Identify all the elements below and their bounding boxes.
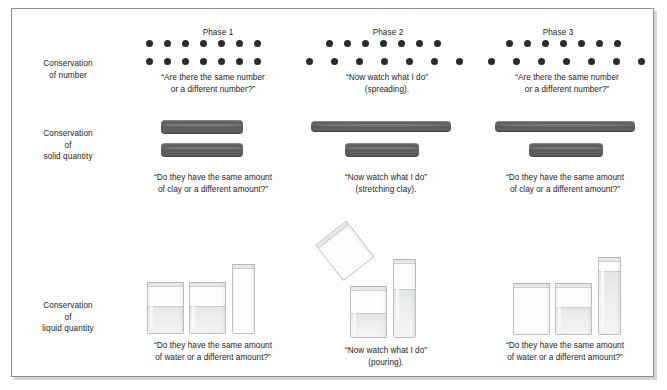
glass-highlight: [353, 291, 356, 334]
caption-number-phase2: “Now watch what I do” (spreading).: [317, 72, 457, 96]
dot: [563, 58, 570, 65]
glass-highlight: [516, 288, 519, 331]
conservation-tasks-figure: Phase 1 Phase 2 Phase 3 Conservation of …: [0, 0, 667, 390]
caption-liquid-phase2: “Now watch what I do” (pouring).: [311, 345, 461, 369]
dot: [326, 40, 333, 47]
water-level: [351, 313, 386, 337]
caption-number-phase3: “Are there the same number or a differen…: [497, 72, 637, 96]
dot: [578, 40, 585, 47]
phase-title-1: Phase 1: [163, 28, 273, 37]
beaker-phase3-left-empty: [513, 283, 550, 335]
dot: [254, 40, 261, 47]
dot: [381, 58, 388, 65]
dot: [344, 40, 351, 47]
dot: [434, 40, 441, 47]
glass-highlight: [192, 287, 195, 330]
beaker-phase1-tall-empty: [232, 264, 255, 334]
dot: [456, 58, 463, 65]
glass-highlight: [235, 269, 238, 330]
dot: [560, 40, 567, 47]
dot: [613, 58, 620, 65]
glass-shadow: [221, 283, 225, 333]
caption-liquid-phase3: “Do they have the same amount of water o…: [483, 340, 647, 364]
dot: [416, 40, 423, 47]
water-level: [190, 306, 225, 333]
glass-highlight: [601, 262, 604, 331]
clay-bar-phase2-top: [311, 121, 451, 132]
glass-shadow: [545, 284, 549, 334]
dot: [254, 58, 261, 65]
dot: [164, 58, 171, 65]
row-label-conservation-of-solid-quantity: Conservation of solid quantity: [16, 128, 120, 163]
dot: [164, 40, 171, 47]
dot: [356, 58, 363, 65]
beaker-phase3-middle: [555, 283, 592, 335]
dot: [306, 58, 313, 65]
dot: [236, 40, 243, 47]
caption-liquid-phase1: “Do they have the same amount of water o…: [131, 340, 295, 364]
dot: [488, 58, 495, 65]
glass-shadow: [587, 284, 591, 334]
glass-highlight: [558, 288, 561, 331]
dot: [506, 40, 513, 47]
water-level: [148, 306, 183, 333]
dot: [588, 58, 595, 65]
dot: [200, 58, 207, 65]
row-label-conservation-of-liquid-quantity: Conservation of liquid quantity: [16, 300, 120, 335]
dot: [362, 40, 369, 47]
clay-bar-phase1-top: [161, 120, 243, 134]
dot: [146, 58, 153, 65]
dot-row-phase3-top: [506, 40, 626, 49]
glass-shadow: [616, 258, 620, 334]
dot-row-phase1-bottom: [146, 58, 266, 67]
dot-row-phase2-bottom: [306, 58, 468, 67]
dot: [182, 58, 189, 65]
dot: [218, 58, 225, 65]
dot: [200, 40, 207, 47]
dot: [398, 40, 405, 47]
phase-title-3: Phase 3: [503, 28, 613, 37]
dot: [542, 40, 549, 47]
dot: [596, 40, 603, 47]
clay-bar-phase1-bottom: [161, 143, 243, 157]
glass-shadow: [382, 287, 386, 337]
glass-shadow: [250, 265, 254, 333]
glass-shadow: [411, 260, 415, 337]
dot: [182, 40, 189, 47]
dot: [236, 58, 243, 65]
clay-bar-phase3-top: [495, 121, 635, 132]
dot-row-phase2-top: [326, 40, 446, 49]
row-label-conservation-of-number: Conservation of number: [16, 58, 120, 81]
dot: [638, 58, 645, 65]
dot-row-phase3-bottom: [488, 58, 650, 67]
dot: [431, 58, 438, 65]
dot: [331, 58, 338, 65]
dot-row-phase1-top: [146, 40, 266, 49]
glass-shadow: [179, 283, 183, 333]
dot: [538, 58, 545, 65]
glass-highlight: [150, 287, 153, 330]
water-level: [556, 307, 591, 334]
beaker-phase2-tall-filling: [393, 259, 416, 338]
clay-bar-phase3-bottom: [529, 143, 603, 157]
glass-highlight: [396, 264, 399, 334]
dot: [513, 58, 520, 65]
dot: [380, 40, 387, 47]
beaker-phase3-tall-full: [598, 257, 621, 335]
beaker-phase1-left: [147, 282, 184, 334]
dot: [146, 40, 153, 47]
caption-solid-phase1: “Do they have the same amount of clay or…: [131, 172, 295, 196]
caption-solid-phase2: “Now watch what I do” (stretching clay).: [311, 172, 461, 196]
caption-number-phase1: “Are there the same number or a differen…: [143, 72, 283, 96]
dot: [218, 40, 225, 47]
dot: [524, 40, 531, 47]
caption-solid-phase3: “Do they have the same amount of clay or…: [483, 172, 647, 196]
dot: [406, 58, 413, 65]
beaker-phase2-left: [350, 286, 387, 338]
beaker-phase1-middle: [189, 282, 226, 334]
dot: [614, 40, 621, 47]
clay-bar-phase2-bottom: [345, 143, 419, 157]
phase-title-2: Phase 2: [333, 28, 443, 37]
